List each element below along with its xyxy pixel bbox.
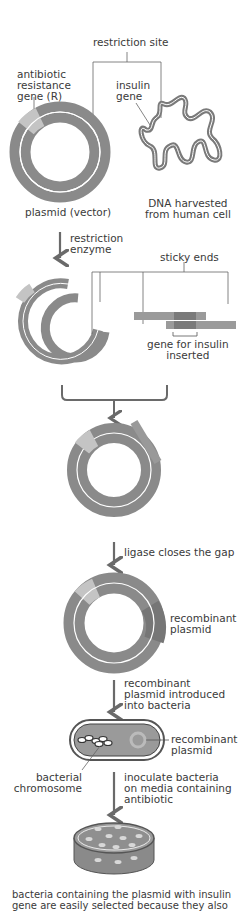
merge-bracket <box>62 385 167 418</box>
label-line: antibiotic <box>124 794 232 805</box>
label-sticky-ends: sticky ends <box>160 252 219 263</box>
label-ligase: ligase closes the gap <box>124 547 234 558</box>
label-plasmid-vector: plasmid (vector) <box>25 207 111 218</box>
caption: bacteria containing the plasmid with ins… <box>12 889 231 911</box>
label-line: into bacteria <box>124 700 225 711</box>
label-recombinant-plasmid: recombinant plasmid <box>170 613 236 635</box>
label-line: gene <box>116 91 150 102</box>
label-restriction-site: restriction site <box>93 37 169 48</box>
petri-dish <box>74 823 154 874</box>
label-line: chromosome <box>12 783 82 794</box>
label-line: plasmid <box>171 745 237 756</box>
label-line: enzyme <box>70 244 123 255</box>
caption-line: gene are easily selected because they al… <box>12 900 231 911</box>
label-line: plasmid <box>170 624 236 635</box>
label-chromosome: bacterial chromosome <box>12 772 82 794</box>
label-gene-inserted: gene for insulin inserted <box>147 339 229 361</box>
label-inoculate: inoculate bacteria on media containing a… <box>124 772 232 805</box>
label-dna-harvested: DNA harvested from human cell <box>145 198 231 220</box>
bacterium <box>70 720 169 770</box>
recombinant-plasmid <box>74 583 156 663</box>
plasmid-vector <box>20 112 100 192</box>
label-line: gene (R) <box>17 91 71 102</box>
label-insulin-gene: insulin gene <box>116 80 150 102</box>
sticky-ends-bracket <box>92 113 228 334</box>
label-restriction-enzyme: restriction enzyme <box>70 233 123 255</box>
caption-line: bacteria containing the plasmid with ins… <box>12 889 231 900</box>
insulin-gene-fragment <box>134 312 236 336</box>
label-line: inserted <box>147 350 229 361</box>
coiling-plasmid <box>77 422 158 507</box>
label-bacterium-plasmid: recombinant plasmid <box>171 734 237 756</box>
label-introduced: recombinant plasmid introduced into bact… <box>124 678 225 711</box>
label-line: from human cell <box>145 209 231 220</box>
label-antibiotic-gene: antibiotic resistance gene (R) <box>17 69 71 102</box>
